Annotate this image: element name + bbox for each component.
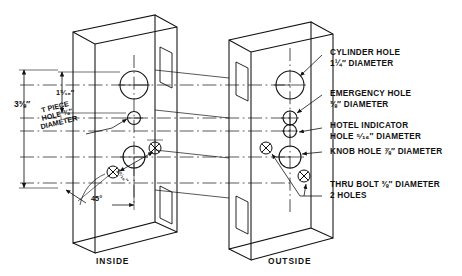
callout-thru-bolt: THRU BOLT ⅜″ DIAMETER 2 HOLES	[330, 180, 440, 201]
view-caption-inside: INSIDE	[96, 256, 129, 266]
callout-knob-hole: KNOB HOLE ⅞″ DIAMETER	[330, 147, 442, 158]
callout-emergency-hole-line-1: EMERGENCY HOLE	[330, 89, 411, 100]
view-caption-outside: OUTSIDE	[268, 256, 312, 266]
technical-drawing-canvas: 3⅜″ 1⁵⁄₁₆″ 45° 1⁵⁄₁₆″ T PIECE HOLE ⅜″ DI…	[0, 0, 462, 276]
leader-line-tpiece	[86, 119, 127, 134]
outside-hotel-indicator-hole	[282, 124, 298, 138]
callout-thru-bolt-line-1: THRU BOLT ⅜″ DIAMETER	[330, 180, 440, 191]
callout-cylinder-hole-line-1: CYLINDER HOLE	[330, 48, 400, 59]
callout-hotel-indicator-line-1: HOTEL INDICATOR	[330, 121, 421, 132]
inside-to-outside-projection-edges	[155, 70, 229, 198]
outside-emergency-hole	[281, 110, 299, 126]
callout-cylinder-hole: CYLINDER HOLE 1¼″ DIAMETER	[330, 48, 400, 69]
callout-cylinder-hole-line-2: 1¼″ DIAMETER	[330, 59, 400, 70]
dimension-angle-label: 45°	[91, 194, 102, 203]
outside-door-mortise-cutouts	[236, 62, 248, 234]
callout-thru-bolt-line-2: 2 HOLES	[330, 191, 440, 202]
outside-thru-bolt-hole-lower	[298, 170, 310, 182]
inside-door-body	[73, 15, 177, 253]
callout-hotel-indicator-line-2: HOLE ⁵⁄₁₆″ DIAMETER	[330, 132, 421, 143]
outside-thru-bolt-hole-upper	[260, 142, 272, 154]
leader-line-knob-hole	[302, 152, 322, 154]
dimension-top-to-cylinder-label: 1⁵⁄₁₆″	[56, 88, 74, 97]
inside-cylinder-hole	[118, 71, 150, 99]
callout-emergency-hole: EMERGENCY HOLE ⅜″ DIAMETER	[330, 89, 411, 110]
callout-emergency-hole-line-2: ⅜″ DIAMETER	[330, 100, 411, 111]
inside-door-mortise-cutouts	[160, 47, 172, 224]
leader-line-emergency-hole	[297, 95, 322, 113]
callout-hotel-indicator-hole: HOTEL INDICATOR HOLE ⁵⁄₁₆″ DIAMETER	[330, 121, 421, 142]
dimension-overall-vertical-label: 3⅜″	[14, 99, 30, 109]
outside-door-body	[229, 22, 333, 260]
callout-knob-hole-line-1: KNOB HOLE ⅞″ DIAMETER	[330, 147, 442, 158]
